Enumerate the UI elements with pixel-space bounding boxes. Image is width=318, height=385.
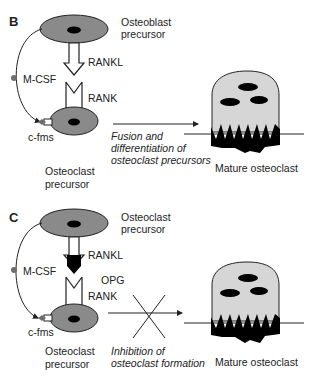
panel-c-m-csf-dot-icon — [11, 267, 17, 273]
panel-c-rank-label: RANK — [88, 290, 117, 302]
panel-c-c-fms-label: c-fms — [28, 326, 54, 338]
panel-b-process-label-2: differentiation of — [111, 142, 186, 154]
panel-c-opg-block-icon — [67, 255, 81, 274]
panel-c-process-label-1: Inhibition of — [111, 345, 165, 357]
panel-b-mature-osteoclast-cell — [211, 71, 280, 153]
panel-b-m-csf-label: M-CSF — [23, 73, 56, 85]
panel-c-rankl-label: RANKL — [88, 249, 123, 261]
panel-c-mature-osteoclast-cell — [211, 262, 280, 343]
panel-c-osteoclast-precursor-top-cell — [40, 209, 108, 237]
panel-c-bottom-cell-label-2: precursor — [45, 358, 89, 370]
panel-b-osteoclast-precursor-cell — [50, 107, 98, 135]
panel-c-m-csf-label: M-CSF — [23, 265, 56, 277]
panel-b-rankl-arrow-icon — [64, 43, 84, 75]
panel-b-letter: B — [9, 14, 18, 29]
panel-c-osteoclast-precursor-cell — [50, 304, 98, 332]
panel-b-top-cell-label-2: precursor — [121, 28, 165, 40]
panel-c-bottom-cell-label-1: Osteoclast — [45, 345, 95, 357]
panel-b-bottom-cell-label-1: Osteoclast — [45, 165, 95, 177]
panel-b-rankl-label: RANKL — [88, 56, 123, 68]
panel-b-mature-osteoclast-label: Mature osteoclast — [215, 162, 298, 174]
panel-c-mature-osteoclast-label: Mature osteoclast — [215, 356, 298, 368]
panel-c-top-cell-label-2: precursor — [121, 223, 165, 235]
panel-c-opg-label: OPG — [101, 274, 124, 286]
panel-b-process-label-1: Fusion and — [111, 130, 163, 142]
panel-c-inhibition-x-icon — [133, 295, 165, 338]
panel-c-rank-receptor-icon — [66, 277, 82, 305]
panel-b-rank-receptor-icon — [66, 82, 82, 110]
panel-c-top-cell-label-1: Osteoclast — [121, 211, 171, 223]
panel-b-osteoblast-precursor-cell — [40, 15, 108, 43]
panel-c-process-label-2: osteoclast formation — [111, 357, 205, 369]
panel-b-top-cell-label-1: Osteoblast — [121, 16, 171, 28]
panel-b-rank-label: RANK — [88, 92, 117, 104]
panel-b-bottom-cell-label-2: precursor — [45, 178, 89, 190]
panel-b-m-csf-dot-icon — [11, 75, 17, 81]
panel-c-letter: C — [9, 210, 18, 225]
panel-b-process-label-3: osteoclast precursors — [111, 154, 211, 166]
panel-b-c-fms-label: c-fms — [28, 131, 54, 143]
